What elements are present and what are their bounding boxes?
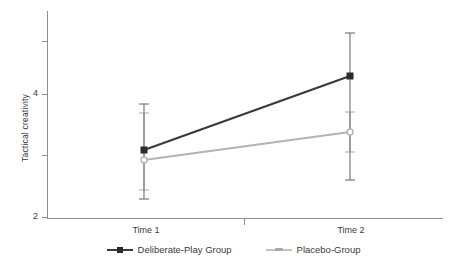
series-marker-deliberate-play-time-1: [141, 147, 148, 154]
legend-item-placebo-group: Placebo-Group: [266, 244, 361, 255]
plot-area: [0, 0, 467, 268]
legend-label-placebo-group: Placebo-Group: [297, 244, 361, 255]
series-marker-placebo-time-1: [141, 157, 147, 163]
chart-legend: Deliberate-Play Group Placebo-Group: [0, 244, 467, 255]
legend-item-deliberate-play-group: Deliberate-Play Group: [107, 244, 232, 255]
series-marker-deliberate-play-time-2: [347, 73, 354, 80]
legend-marker-placebo-icon: [266, 245, 292, 255]
chart-root: 4 2 Tactical creativity Time 1 Time 2: [0, 0, 467, 268]
series-line-placebo: [144, 132, 350, 160]
series-line-deliberate-play: [144, 76, 350, 150]
legend-label-deliberate-play-group: Deliberate-Play Group: [138, 244, 232, 255]
series-marker-placebo-time-2: [347, 129, 353, 135]
legend-marker-deliberate-play-icon: [107, 245, 133, 255]
error-bar-deliberate-play-time-2: [345, 33, 355, 180]
